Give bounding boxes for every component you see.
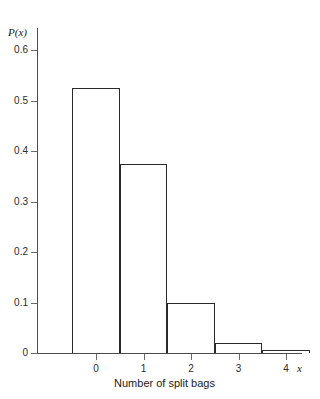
y-axis-tick-label: 0.3 [14,197,28,207]
x-axis-tick-mark [96,354,97,360]
x-axis-tick-label: 4 [276,363,296,374]
histogram-bar [167,303,215,354]
histogram-bar [120,164,168,353]
y-axis-tick-mark [31,151,37,152]
y-axis-tick-label: 0.4 [14,146,28,156]
y-axis-tick-mark [31,252,37,253]
y-axis-tick-mark [31,303,37,304]
probability-histogram-chart: P(x) 00.10.20.30.40.50.6 01234 x Number … [0,0,320,399]
y-axis-tick-mark [31,50,37,51]
histogram-bar [72,88,120,353]
y-axis-tick-label: 0.5 [14,96,28,106]
y-axis-tick-label: 0.6 [14,45,28,55]
x-axis-tick-label: 0 [86,363,106,374]
y-axis-tick-label: 0 [22,348,28,358]
x-axis-tick-label: 3 [229,363,249,374]
y-axis-title: P(x) [8,26,27,38]
x-axis-tick-label: 1 [134,363,154,374]
y-axis-line [37,28,38,354]
y-axis-tick-mark [31,101,37,102]
y-axis-tick-mark [31,353,37,354]
y-axis-tick-label: 0.1 [14,298,28,308]
x-axis-line [37,353,302,354]
x-axis-tick-mark [191,354,192,360]
x-axis-variable-label: x [297,362,302,374]
y-axis-tick-mark [31,202,37,203]
x-axis-tick-mark [239,354,240,360]
x-axis-tick-mark [144,354,145,360]
y-axis-tick-label: 0.2 [14,247,28,257]
x-axis-tick-label: 2 [181,363,201,374]
histogram-bar [215,343,263,353]
x-axis-title: Number of split bags [37,377,292,389]
x-axis-tick-mark [286,354,287,360]
histogram-bar [262,350,310,353]
